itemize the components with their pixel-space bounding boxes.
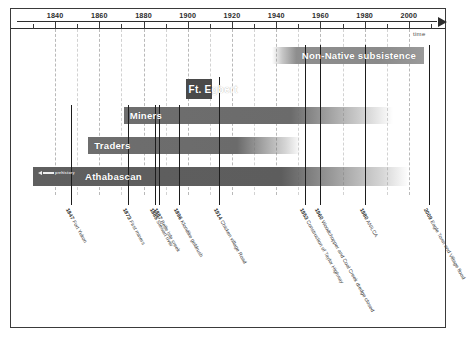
axis-year-label: 1920	[224, 11, 241, 20]
axis-year-label: 1860	[91, 11, 108, 20]
timeline-bar-nonnative: Non-Native subsistence	[272, 47, 425, 64]
axis-year-label: 1980	[356, 11, 373, 20]
axis-tick	[188, 22, 189, 29]
axis-tick	[320, 22, 321, 29]
axis-year-label: 1880	[135, 11, 152, 20]
event-marker-line	[219, 77, 220, 205]
axis-year-label: 2000	[400, 11, 417, 20]
axis-tick	[144, 22, 145, 29]
prehistory-arrow-icon	[38, 171, 42, 175]
axis-tick	[365, 22, 366, 29]
timeline-bar-athabascan: prehistoryAthabascan	[33, 167, 409, 186]
axis-tick	[99, 22, 100, 29]
timeline-bar-egbert: Ft. Egbert	[186, 79, 213, 99]
event-label: 2009 Eagle Town and Village flood	[423, 207, 467, 280]
event-marker-line	[365, 45, 366, 205]
axis-tick	[55, 22, 56, 29]
axis-tick	[232, 22, 233, 29]
bar-label-traders: Traders	[88, 140, 130, 151]
event-label: 1873 First miners	[122, 207, 147, 246]
event-marker-line	[305, 45, 306, 205]
prehistory-marker: prehistory	[38, 171, 75, 175]
bar-label-miners: Miners	[124, 110, 162, 121]
event-marker-line	[179, 105, 180, 205]
bar-label-egbert: Ft. Egbert	[186, 84, 238, 95]
axis-year-label: 1960	[312, 11, 329, 20]
prehistory-label: prehistory	[55, 171, 75, 175]
event-label: 1914 Chicken village Road	[212, 207, 248, 265]
axis-time-label: time	[413, 31, 426, 37]
timeline-bar-miners: Miners	[124, 107, 394, 124]
event-marker-line	[71, 105, 72, 205]
event-label: 1847 Fort Yukon	[64, 207, 88, 244]
event-label: 1980 ANILCA	[358, 207, 379, 238]
event-marker-line	[429, 45, 430, 205]
axis-arrow-line	[17, 21, 437, 22]
axis-year-label: 1940	[268, 11, 285, 20]
time-axis: 184018601880190019201940196019802000 tim…	[11, 9, 445, 29]
axis-arrow-head-icon	[438, 17, 447, 27]
axis-tick	[276, 22, 277, 29]
timeline-bar-traders: Traders	[88, 137, 300, 154]
axis-year-label: 1900	[179, 11, 196, 20]
axis-year-label: 1840	[47, 11, 64, 20]
event-marker-line	[320, 45, 321, 205]
axis-tick	[431, 24, 432, 29]
bar-label-nonnative: Non-Native subsistence	[272, 50, 416, 61]
axis-tick	[33, 24, 34, 29]
timeline-diagram-frame: 184018601880190019201940196019802000 tim…	[10, 8, 446, 328]
axis-tick	[409, 22, 410, 29]
prehistory-rule	[43, 172, 54, 173]
